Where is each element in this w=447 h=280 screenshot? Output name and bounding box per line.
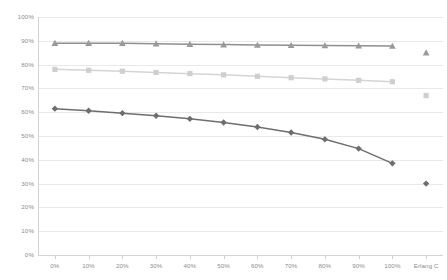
data-point-square	[356, 78, 361, 83]
final-data-point-diamond	[423, 180, 429, 186]
final-data-point-square	[424, 93, 429, 98]
data-point-square	[52, 67, 57, 72]
final-data-point-triangle	[423, 49, 430, 55]
data-point-square	[289, 75, 294, 80]
data-point-diamond	[119, 110, 125, 116]
data-point-diamond	[153, 113, 159, 119]
data-point-square	[322, 76, 327, 81]
data-point-diamond	[254, 124, 260, 130]
data-point-square	[255, 74, 260, 79]
data-point-square	[187, 71, 192, 76]
plot-area: 100%90%80%70%60%50%40%30%20%10%0%0%10%20…	[0, 0, 447, 280]
data-point-square	[390, 79, 395, 84]
data-point-square	[120, 69, 125, 74]
data-point-diamond	[220, 119, 226, 125]
data-point-diamond	[52, 105, 58, 111]
data-point-square	[221, 72, 226, 77]
data-point-diamond	[355, 145, 361, 151]
data-point-square	[154, 70, 159, 75]
data-point-diamond	[288, 129, 294, 135]
data-point-diamond	[187, 116, 193, 122]
data-point-diamond	[322, 136, 328, 142]
chart-container: 100%90%80%70%60%50%40%30%20%10%0%0%10%20…	[0, 0, 447, 280]
data-point-diamond	[85, 108, 91, 114]
series-layer	[0, 0, 447, 280]
series-line-diamond	[55, 109, 393, 164]
data-point-square	[86, 68, 91, 73]
data-point-diamond	[389, 160, 395, 166]
